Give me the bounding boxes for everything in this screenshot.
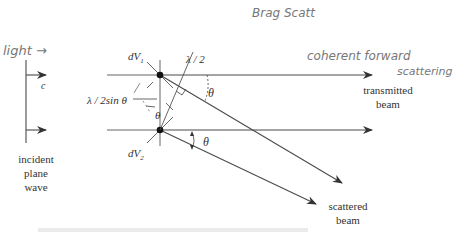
scattered-ray-2 [160,130,316,204]
theta-label-top: θ [208,86,214,100]
handwritten-bragg: Brag Scatt [252,6,316,20]
dv1-label: dV1 [128,50,144,65]
handwritten-light: light → [3,43,47,58]
transmitted-label-1: transmitted [363,84,413,96]
volume-element-1 [157,72,164,79]
incident-label-3: wave [24,181,47,193]
cropped-caption [38,228,308,232]
theta-label-mid: θ [155,109,161,121]
handwritten-scattering: scattering [397,65,452,78]
scattered-ray-1 [160,75,342,183]
path-difference-label: λ / 2sin θ [86,94,127,106]
scattered-label-2: beam [336,214,360,226]
dv2-label: dV2 [128,147,144,162]
incident-wavefront [26,60,46,143]
speed-label: c [41,80,46,91]
half-lambda-label: λ / 2 [185,53,205,65]
scattered-label-1: scattered [328,200,368,212]
incident-label-2: plane [24,167,48,179]
bragg-scattering-diagram: c incident plane wave dV1 dV2 λ / 2 λ / … [0,0,465,232]
handwritten-coherent: coherent forward [307,49,411,63]
theta-label-bottom: θ [203,135,209,149]
transmitted-label-2: beam [376,98,400,110]
incident-label-1: incident [18,153,53,165]
